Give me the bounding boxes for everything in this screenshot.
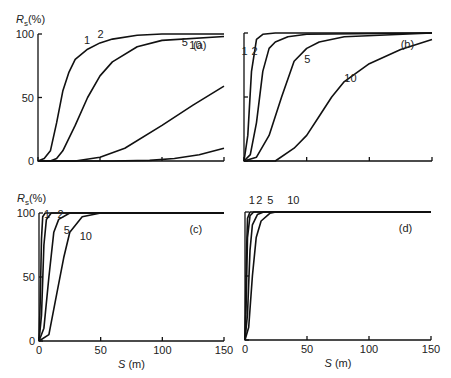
curve-10 xyxy=(38,148,224,161)
x-tick-label: 50 xyxy=(301,343,313,355)
curve-2 xyxy=(38,37,224,162)
curve-label: 10 xyxy=(80,230,92,242)
panel-tag: (a) xyxy=(193,39,206,51)
curve-label: 10 xyxy=(344,72,356,84)
axes xyxy=(38,34,224,161)
y-tick-label: 50 xyxy=(22,92,34,104)
y-tick-label: 100 xyxy=(17,207,35,219)
curve-label: 5 xyxy=(267,194,273,206)
x-tick-label: 100 xyxy=(153,344,171,356)
y-tick-label: 0 xyxy=(28,155,34,167)
figure-four-panel-chart: 05010012510(a)Rs(%)12510(b)0501000501001… xyxy=(0,0,451,378)
x-tick-label: 150 xyxy=(422,343,440,355)
curve-1 xyxy=(244,33,432,161)
curve-label: 2 xyxy=(252,45,258,57)
panel-tag: (b) xyxy=(401,38,414,50)
curve-2 xyxy=(244,33,432,161)
y-axis-label: Rs(%) xyxy=(16,13,45,28)
y-tick-label: 0 xyxy=(29,335,35,347)
x-tick-label: 0 xyxy=(36,344,42,356)
x-tick-label: 150 xyxy=(215,344,233,356)
x-tick-label: 100 xyxy=(360,343,378,355)
curve-1 xyxy=(38,34,224,161)
curve-5 xyxy=(38,86,224,161)
y-axis-label: Rs(%) xyxy=(17,192,46,207)
panel-d: 05010015012510(d)S (m) xyxy=(242,194,440,369)
y-tick-label: 50 xyxy=(23,271,35,283)
curve-label: 2 xyxy=(256,194,262,206)
curve-label: 5 xyxy=(182,36,188,48)
panel-tag: (d) xyxy=(399,222,412,234)
x-tick-label: 50 xyxy=(95,344,107,356)
curve-label: 1 xyxy=(249,194,255,206)
panel-b: 12510(b) xyxy=(241,33,432,161)
panel-a: 05010012510(a)Rs(%) xyxy=(16,13,224,167)
curve-label: 2 xyxy=(98,28,104,40)
curve-label: 1 xyxy=(84,34,90,46)
curve-label: 5 xyxy=(304,53,310,65)
x-axis-label: S (m) xyxy=(118,358,145,370)
axes xyxy=(244,33,432,161)
panel-c: 05010005010015012510(c)Rs(%)S (m) xyxy=(17,192,234,370)
panel-tag: (c) xyxy=(189,223,202,235)
y-tick-label: 100 xyxy=(16,28,34,40)
curve-label: 1 xyxy=(241,45,247,57)
curve-10 xyxy=(244,39,432,161)
x-axis-label: S (m) xyxy=(325,357,352,369)
x-tick-label: 0 xyxy=(242,343,248,355)
curve-5 xyxy=(244,33,432,161)
curve-label: 10 xyxy=(287,194,299,206)
